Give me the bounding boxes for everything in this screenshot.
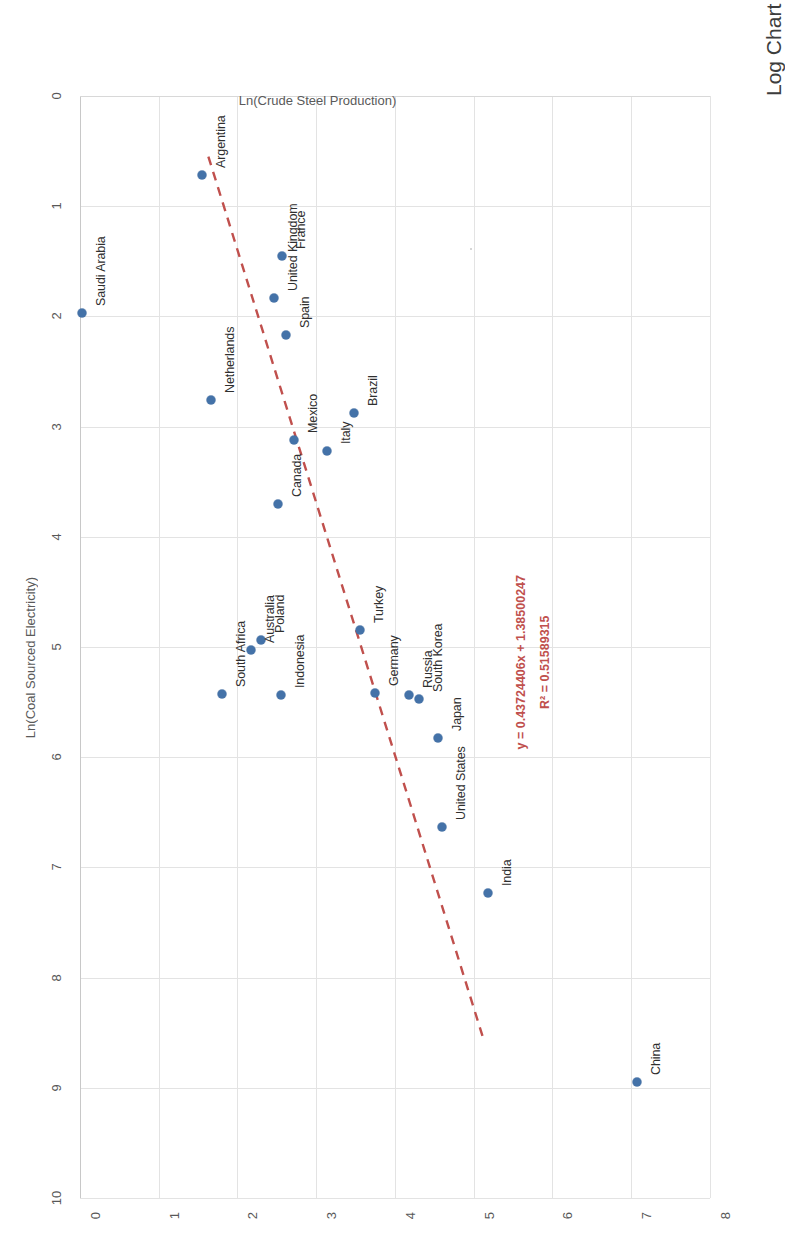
gridline-vertical — [80, 1198, 710, 1199]
x-tick-label: 8 — [49, 974, 64, 981]
data-point[interactable] — [434, 734, 443, 743]
data-point[interactable] — [206, 396, 215, 405]
data-point-label: South Korea — [431, 623, 445, 691]
x-tick-label: 2 — [49, 313, 64, 320]
y-tick-label: 6 — [560, 1212, 575, 1219]
data-point[interactable] — [405, 691, 414, 700]
x-tick-label: 4 — [49, 533, 64, 540]
data-point[interactable] — [274, 499, 283, 508]
data-point[interactable] — [246, 646, 255, 655]
y-axis-title: Ln(Crude Steel Production) — [239, 93, 397, 108]
data-point[interactable] — [282, 331, 291, 340]
data-point[interactable] — [355, 626, 364, 635]
regression-annotation: y = 0.43724406x + 1.38500247 R² = 0.5158… — [509, 575, 558, 749]
data-point-label: Indonesia — [293, 635, 307, 688]
x-tick-label: 7 — [49, 864, 64, 871]
data-point[interactable] — [414, 694, 423, 703]
x-tick-label: 9 — [49, 1084, 64, 1091]
y-tick-label: 7 — [639, 1212, 654, 1219]
x-tick-label: 10 — [49, 1191, 64, 1205]
y-tick-label: 4 — [403, 1212, 418, 1219]
data-point[interactable] — [277, 251, 286, 260]
data-point-label: Germany — [387, 636, 401, 687]
regression-equation: y = 0.43724406x + 1.38500247 — [509, 575, 533, 749]
x-tick-label: 5 — [49, 643, 64, 650]
x-tick-label: 1 — [49, 203, 64, 210]
data-point[interactable] — [323, 446, 332, 455]
data-point-label: Italy — [339, 421, 353, 443]
x-tick-label: 0 — [49, 92, 64, 99]
data-point-label: Canada — [290, 454, 304, 497]
data-point-label: China — [649, 1043, 663, 1075]
data-point-label: Argentina — [214, 116, 228, 169]
data-point[interactable] — [77, 309, 86, 318]
data-point-label: Saudi Arabia — [94, 236, 108, 306]
x-tick-label: 6 — [49, 754, 64, 761]
data-point[interactable] — [371, 689, 380, 698]
data-point-label: South Africa — [234, 621, 248, 687]
data-point-label: India — [500, 859, 514, 886]
y-tick-label: 3 — [324, 1212, 339, 1219]
y-tick-label: 2 — [245, 1212, 260, 1219]
data-point-label: United Kingdom — [287, 203, 301, 291]
data-point-label: Mexico — [306, 394, 320, 433]
data-point[interactable] — [632, 1078, 641, 1087]
plot-area: 012345678910 012345678 ChinaIndiaUnited … — [80, 96, 710, 1198]
r-squared-value: R² = 0.51589315 — [534, 575, 558, 749]
gridline-horizontal — [710, 96, 711, 1198]
y-tick-label: 0 — [88, 1212, 103, 1219]
data-point[interactable] — [217, 690, 226, 699]
data-point[interactable] — [483, 888, 492, 897]
data-point-label: Japan — [450, 698, 464, 732]
x-tick-label: 3 — [49, 423, 64, 430]
data-point[interactable] — [276, 691, 285, 700]
data-point[interactable] — [438, 822, 447, 831]
x-axis-title: Ln(Coal Sourced Electricity) — [23, 577, 38, 738]
chart-title: Log Chart of Coal Electricity versus Cru… — [762, 0, 786, 96]
data-point-label: Australia — [263, 596, 277, 644]
data-point[interactable] — [198, 171, 207, 180]
data-point[interactable] — [270, 293, 279, 302]
data-point[interactable] — [290, 435, 299, 444]
data-point-label: Turkey — [372, 586, 386, 623]
y-tick-label: 8 — [718, 1212, 733, 1219]
data-point-label: Netherlands — [223, 327, 237, 393]
data-point-label: United States — [454, 746, 468, 820]
data-point[interactable] — [350, 409, 359, 418]
y-tick-label: 1 — [166, 1212, 181, 1219]
y-tick-label: 5 — [481, 1212, 496, 1219]
data-point-label: Brazil — [366, 376, 380, 407]
data-point-label: Spain — [298, 297, 312, 328]
